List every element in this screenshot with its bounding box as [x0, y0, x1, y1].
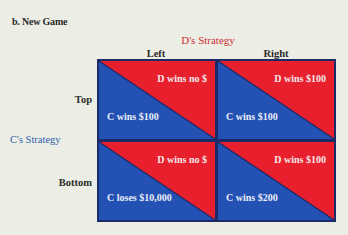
row-label-top: Top [75, 94, 92, 105]
payoff-matrix: D wins no $ C wins $100 D wins $100 C wi… [97, 59, 336, 222]
cell-bottom-left: D wins no $ C loses $10,000 [99, 142, 215, 220]
c-payoff: C loses $10,000 [107, 192, 172, 203]
row-player-label: C's Strategy [10, 134, 61, 145]
column-label-left: Left [147, 48, 166, 59]
column-label-right: Right [263, 48, 288, 59]
c-payoff: C wins $100 [107, 111, 159, 122]
d-payoff: D wins no $ [157, 73, 207, 84]
row-label-bottom: Bottom [59, 177, 92, 188]
d-payoff: D wins no $ [157, 154, 207, 165]
d-payoff: D wins $100 [274, 154, 326, 165]
figure-title: b. New Game [12, 16, 67, 27]
cell-top-left: D wins no $ C wins $100 [99, 61, 215, 139]
c-payoff: C wins $200 [226, 192, 278, 203]
d-payoff: D wins $100 [274, 73, 326, 84]
cell-top-right: D wins $100 C wins $100 [218, 61, 334, 139]
c-payoff: C wins $100 [226, 111, 278, 122]
cell-bottom-right: D wins $100 C wins $200 [218, 142, 334, 220]
column-player-label: D's Strategy [181, 34, 235, 46]
